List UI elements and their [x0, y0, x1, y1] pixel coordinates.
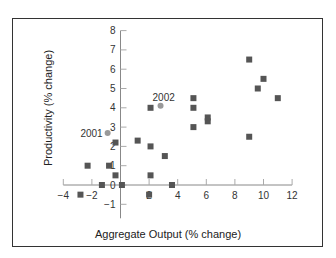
data-point-circle — [158, 103, 164, 109]
data-point-square — [162, 153, 168, 159]
data-point-square — [255, 86, 261, 92]
y-tick-label: 8 — [110, 25, 116, 36]
data-point-square — [246, 57, 252, 63]
data-point-square — [205, 114, 211, 120]
y-tick-label: 3 — [110, 122, 116, 133]
point-annotation: 2001 — [80, 128, 103, 139]
data-points: 20012002 — [77, 57, 280, 198]
data-point-square — [190, 124, 196, 130]
data-point-square — [275, 95, 281, 101]
x-tick-label: −2 — [86, 190, 98, 201]
data-point-square — [261, 76, 267, 82]
data-point-square — [85, 163, 91, 169]
data-point-square — [135, 138, 141, 144]
x-tick-label: 10 — [258, 190, 270, 201]
x-tick-label: 4 — [175, 190, 181, 201]
data-point-square — [112, 172, 118, 178]
y-tick-label: −1 — [104, 199, 116, 210]
axes: −4−224681012−1012345678 — [58, 25, 299, 218]
data-point-circle — [105, 130, 111, 136]
data-point-square — [112, 140, 118, 146]
y-tick-label: 6 — [110, 64, 116, 75]
data-point-square — [148, 105, 154, 111]
data-point-square — [246, 134, 252, 140]
y-tick-label: 4 — [110, 102, 116, 113]
data-point-square — [106, 163, 112, 169]
x-tick-label: 12 — [287, 190, 299, 201]
data-point-square — [190, 95, 196, 101]
x-tick-label: −4 — [58, 190, 70, 201]
y-tick-label: 7 — [110, 44, 116, 55]
x-axis-label: Aggregate Output (% change) — [95, 228, 241, 240]
data-point-square — [148, 143, 154, 149]
data-point-square — [146, 192, 152, 198]
data-point-square — [190, 105, 196, 111]
point-annotation: 2002 — [153, 92, 176, 103]
x-tick-label: 8 — [232, 190, 238, 201]
y-axis-label: Productivity (% change) — [42, 50, 54, 166]
data-point-square — [119, 182, 125, 188]
y-tick-label: 0 — [110, 180, 116, 191]
data-point-square — [77, 192, 83, 198]
scatter-chart: −4−224681012−1012345678 20012002 Aggrega… — [0, 0, 336, 258]
data-point-square — [148, 172, 154, 178]
data-point-square — [169, 182, 175, 188]
x-tick-label: 6 — [204, 190, 210, 201]
data-point-square — [99, 182, 105, 188]
y-tick-label: 5 — [110, 83, 116, 94]
